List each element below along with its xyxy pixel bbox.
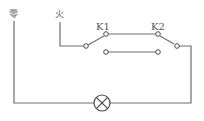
switch-k2-arm xyxy=(160,36,174,44)
switch-k1-common-contact xyxy=(84,44,89,49)
neutral-label: 零 xyxy=(9,9,18,19)
switch-k1-lower-contact xyxy=(104,50,109,55)
switch-k2-lower-contact xyxy=(156,50,161,55)
switch-k1-label: K1 xyxy=(96,21,110,32)
return-wire xyxy=(110,46,191,103)
lamp-icon xyxy=(94,95,110,111)
switch-k2-label: K2 xyxy=(151,21,165,32)
circuit-diagram: 零 火 K1 K2 xyxy=(0,0,204,121)
live-wire xyxy=(60,22,84,46)
switch-k2-upper-contact xyxy=(156,32,161,37)
neutral-wire xyxy=(14,21,94,103)
switch-k2-common-contact xyxy=(175,44,180,49)
switch-k1-arm xyxy=(88,36,104,45)
live-label: 火 xyxy=(55,9,64,19)
switch-k1-upper-contact xyxy=(104,32,109,37)
